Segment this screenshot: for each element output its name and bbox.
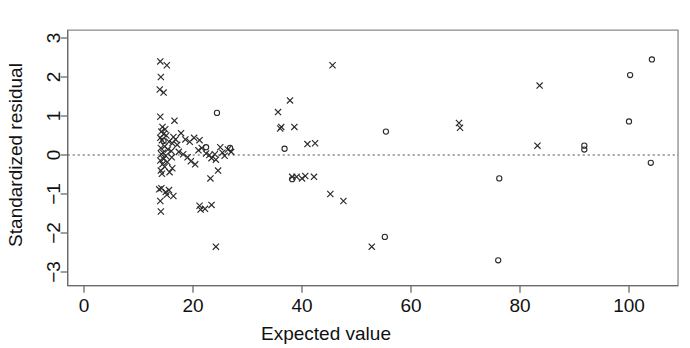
series-circle <box>161 57 655 263</box>
x-axis-tick-labels: 020406080100 <box>79 295 645 316</box>
data-point-cross <box>202 206 208 212</box>
data-point-cross <box>166 169 172 175</box>
data-point-cross <box>222 153 228 159</box>
data-point-circle <box>203 145 208 150</box>
data-point-cross <box>291 124 297 130</box>
x-tick-label-80: 80 <box>509 295 530 316</box>
data-point-circle <box>496 258 501 263</box>
data-point-cross <box>196 137 202 143</box>
x-tick-label-20: 20 <box>182 295 203 316</box>
data-point-cross <box>157 198 163 204</box>
data-point-cross <box>219 150 225 156</box>
data-point-cross <box>192 161 198 167</box>
x-tick-label-0: 0 <box>79 295 90 316</box>
y-tick-label-0: 0 <box>43 150 64 161</box>
data-point-cross <box>299 175 305 181</box>
data-point-cross <box>340 198 346 204</box>
data-point-cross <box>215 168 221 174</box>
data-point-cross <box>174 142 180 148</box>
y-tick-label-3: 3 <box>43 33 64 44</box>
y-axis-title: Standardized residual <box>5 63 26 247</box>
data-point-circle <box>649 57 654 62</box>
data-point-cross <box>228 149 234 155</box>
scatter-plot-figure: 020406080100 −3−2−10123 Expected value S… <box>0 0 690 348</box>
x-tick-label-100: 100 <box>613 295 645 316</box>
data-point-cross <box>208 202 214 208</box>
data-point-cross <box>178 130 184 136</box>
y-axis-tick-labels: −3−2−10123 <box>43 33 64 283</box>
data-point-cross <box>195 147 201 153</box>
data-point-circle <box>214 110 219 115</box>
data-point-cross <box>156 186 162 192</box>
data-point-cross <box>164 62 170 68</box>
data-point-circle <box>382 234 387 239</box>
data-point-cross <box>312 140 318 146</box>
x-tick-label-60: 60 <box>400 295 421 316</box>
data-point-cross <box>158 74 164 80</box>
data-point-cross <box>329 62 335 68</box>
data-point-cross <box>302 173 308 179</box>
data-points-layer <box>156 57 654 263</box>
data-point-cross <box>157 114 163 120</box>
data-point-circle <box>497 176 502 181</box>
data-point-cross <box>537 82 543 88</box>
data-point-cross <box>217 144 223 150</box>
data-point-circle <box>626 119 631 124</box>
data-point-circle <box>627 72 632 77</box>
data-point-cross <box>158 208 164 214</box>
x-axis-title: Expected value <box>261 323 391 344</box>
series-cross <box>156 58 543 249</box>
data-point-cross <box>327 191 333 197</box>
data-point-cross <box>169 165 175 171</box>
data-point-cross <box>171 118 177 124</box>
data-point-circle <box>648 160 653 165</box>
data-point-cross <box>160 90 166 96</box>
residual-scatter-chart: 020406080100 −3−2−10123 Expected value S… <box>0 0 690 348</box>
data-point-cross <box>170 193 176 199</box>
data-point-cross <box>457 125 463 131</box>
y-tick-label-1: 1 <box>43 111 64 122</box>
data-point-cross <box>534 143 540 149</box>
x-axis-ticks <box>84 286 629 293</box>
data-point-cross <box>275 109 281 115</box>
data-point-cross <box>157 58 163 64</box>
data-point-cross <box>287 97 293 103</box>
data-point-cross <box>369 244 375 250</box>
data-point-cross <box>311 174 317 180</box>
data-point-cross <box>207 175 213 181</box>
data-point-circle <box>383 129 388 134</box>
data-point-cross <box>188 158 194 164</box>
data-point-cross <box>304 141 310 147</box>
y-tick-label-2: 2 <box>43 72 64 83</box>
y-tick-label--2: −2 <box>43 222 64 244</box>
x-tick-label-40: 40 <box>291 295 312 316</box>
y-tick-label--3: −3 <box>43 261 64 283</box>
data-point-circle <box>282 146 287 151</box>
data-point-cross <box>213 244 219 250</box>
data-point-cross <box>212 151 218 157</box>
y-tick-label--1: −1 <box>43 183 64 205</box>
